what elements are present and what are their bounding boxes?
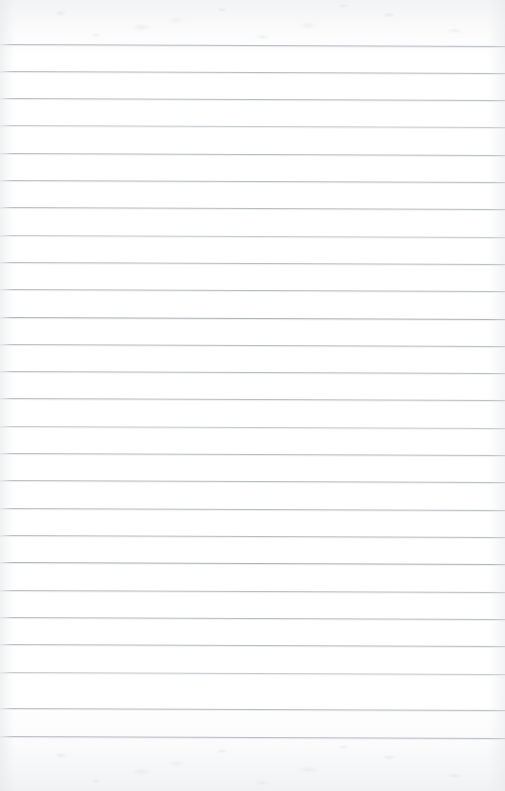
- scanned-page: [0, 0, 505, 791]
- page-writing-area[interactable]: [0, 44, 505, 744]
